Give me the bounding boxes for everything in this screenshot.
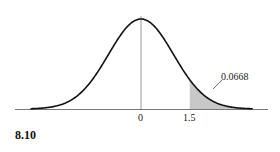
tick-label-0: 0: [138, 112, 143, 123]
figure-label: 8.10: [15, 128, 36, 143]
tail-area-annotation: 0.0668: [221, 71, 249, 82]
density-curve: [31, 19, 253, 109]
tick-label-1-5: 1.5: [183, 112, 196, 123]
normal-curve-chart: 0 1.5 0.0668: [0, 0, 280, 152]
